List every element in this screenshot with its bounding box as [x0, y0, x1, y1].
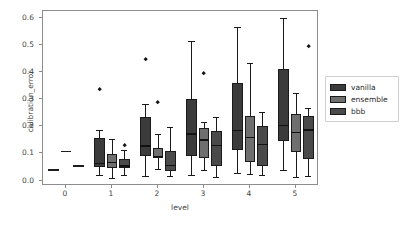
x-tick-label: 2 [145, 189, 169, 198]
plot-frame [42, 10, 318, 185]
legend-label: vanilla [351, 83, 376, 92]
whisker-cap [201, 122, 207, 123]
whisker-cap [293, 93, 299, 94]
median-line [291, 132, 302, 133]
box-glyph [119, 159, 130, 168]
y-tick-label: 0.2 [8, 121, 34, 130]
x-tick-label: 3 [191, 189, 215, 198]
median-line [232, 130, 243, 131]
legend-swatch-icon [330, 108, 346, 115]
x-tick-mark [203, 185, 204, 188]
box-glyph [73, 165, 84, 167]
whisker-cap [213, 117, 219, 118]
x-tick-label: 0 [53, 189, 77, 198]
box-glyph [232, 83, 243, 150]
legend: vanillaensemblebbb [325, 76, 399, 122]
x-tick-label: 4 [237, 189, 261, 198]
whisker-cap [109, 139, 115, 140]
whisker-cap [305, 176, 311, 177]
whisker-cap [305, 108, 311, 109]
boxplot-figure: calibration_error 0.00.10.20.30.40.50.6 … [0, 0, 403, 225]
box-glyph [278, 69, 289, 141]
box-glyph [303, 116, 314, 159]
y-tick-label: 0.5 [8, 39, 34, 48]
median-line [165, 165, 176, 166]
box-glyph [211, 131, 222, 166]
y-tick-label: 0.6 [8, 12, 34, 21]
legend-label: bbb [351, 107, 365, 116]
whisker-cap [96, 175, 102, 176]
whisker-cap [201, 170, 207, 171]
whisker-cap [247, 174, 253, 175]
outlier-marker [202, 71, 207, 76]
median-line [119, 165, 130, 166]
x-axis-label: level [42, 203, 318, 212]
whisker-cap [213, 177, 219, 178]
legend-label: ensemble [351, 95, 388, 104]
legend-item-bbb[interactable]: bbb [330, 105, 394, 117]
whisker-cap [121, 150, 127, 151]
legend-swatch-icon [330, 84, 346, 91]
box-glyph [165, 151, 176, 170]
x-tick-mark [111, 185, 112, 188]
whisker-cap [234, 27, 240, 28]
box-glyph [199, 128, 210, 158]
whisker-cap [121, 175, 127, 176]
whisker-cap [259, 112, 265, 113]
median-line [199, 139, 210, 140]
whisker-cap [259, 175, 265, 176]
median-line [257, 144, 268, 145]
box-glyph [186, 99, 197, 156]
outlier-marker [306, 44, 311, 49]
whisker-cap [280, 18, 286, 19]
outlier-marker [143, 57, 148, 62]
median-line [245, 137, 256, 138]
legend-swatch-icon [330, 96, 346, 103]
outlier-marker [122, 143, 127, 148]
plot-area [43, 11, 317, 184]
median-line [94, 163, 105, 164]
x-tick-label: 1 [99, 189, 123, 198]
y-tick-label: 0.3 [8, 94, 34, 103]
median-line [186, 133, 197, 134]
whisker-cap [142, 176, 148, 177]
x-tick-label: 5 [283, 189, 307, 198]
median-line [278, 125, 289, 126]
box-glyph [61, 151, 72, 153]
median-line [303, 129, 314, 130]
whisker-cap [247, 63, 253, 64]
median-line [211, 145, 222, 146]
whisker-cap [280, 170, 286, 171]
outlier-marker [156, 100, 161, 105]
median-line [140, 145, 151, 146]
x-tick-mark [295, 185, 296, 188]
box-glyph [257, 126, 268, 166]
y-tick-label: 0.1 [8, 148, 34, 157]
legend-item-ensemble[interactable]: ensemble [330, 93, 394, 105]
box-glyph [48, 169, 59, 171]
box-glyph [140, 117, 151, 156]
y-tick-label: 0.0 [8, 175, 34, 184]
legend-item-vanilla[interactable]: vanilla [330, 81, 394, 93]
whisker-cap [293, 177, 299, 178]
whisker-cap [155, 169, 161, 170]
whisker-cap [167, 127, 173, 128]
median-line [153, 156, 164, 157]
whisker-cap [142, 104, 148, 105]
median-line [107, 162, 118, 163]
x-tick-mark [65, 185, 66, 188]
x-tick-mark [249, 185, 250, 188]
x-tick-mark [157, 185, 158, 188]
whisker-cap [188, 175, 194, 176]
whisker-cap [234, 173, 240, 174]
whisker-cap [188, 41, 194, 42]
y-tick-label: 0.4 [8, 67, 34, 76]
box-glyph [245, 116, 256, 162]
whisker-cap [167, 176, 173, 177]
outlier-marker [97, 87, 102, 92]
whisker-cap [96, 130, 102, 131]
whisker-cap [109, 178, 115, 179]
whisker-cap [155, 134, 161, 135]
